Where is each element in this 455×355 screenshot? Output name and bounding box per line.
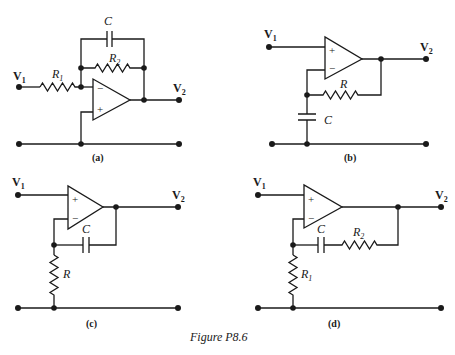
c-label-b: C bbox=[324, 113, 333, 127]
node bbox=[51, 305, 57, 311]
v1-label-b: V1 bbox=[264, 27, 277, 43]
ground-terminal bbox=[176, 141, 182, 147]
resistor-r1-d bbox=[289, 255, 297, 308]
ground-terminal bbox=[423, 141, 429, 147]
capacitor-c-d bbox=[318, 237, 324, 253]
panel-label-b: (b) bbox=[344, 152, 356, 164]
r1-label-d: R1 bbox=[300, 267, 312, 283]
c-label-a: C bbox=[104, 14, 113, 28]
r-label-c: R bbox=[62, 267, 71, 281]
wire bbox=[293, 219, 304, 255]
ground-terminal bbox=[438, 305, 444, 311]
resistor-r2-d bbox=[324, 207, 398, 249]
v2-label-a: V2 bbox=[173, 81, 186, 97]
ground-terminal bbox=[16, 141, 22, 147]
wire bbox=[112, 39, 144, 100]
circuit-b: V1 + − V2 R C (b) bbox=[264, 27, 433, 164]
opamp-input-top-sign: − bbox=[97, 82, 103, 94]
v1-label-c: V1 bbox=[12, 175, 25, 191]
opamp-input-bottom-sign: − bbox=[329, 62, 335, 74]
c-label-d: C bbox=[317, 222, 326, 236]
node bbox=[78, 141, 84, 147]
figure-p8-6: V1 R1 C R2 − + V2 (a) bbox=[0, 0, 455, 355]
panel-label-d: (d) bbox=[328, 318, 340, 330]
v2-terminal-c bbox=[175, 204, 181, 210]
circuit-c: V1 + − V2 C R (c) bbox=[12, 175, 185, 330]
ground-terminal bbox=[269, 141, 275, 147]
figure-caption: Figure P8.6 bbox=[189, 330, 248, 344]
wire bbox=[81, 112, 93, 144]
v2-terminal-b bbox=[423, 56, 429, 62]
capacitor-c-a bbox=[107, 31, 112, 47]
panel-label-a: (a) bbox=[92, 152, 104, 164]
v2-label-b: V2 bbox=[420, 40, 433, 56]
opamp-input-top-sign: + bbox=[308, 193, 314, 205]
node bbox=[290, 305, 296, 311]
opamp-input-top-sign: + bbox=[72, 193, 78, 205]
capacitor-c-b bbox=[298, 114, 316, 120]
opamp-input-bottom-sign: + bbox=[97, 103, 103, 115]
opamp-input-top-sign: + bbox=[329, 44, 335, 56]
opamp-input-bottom-sign: − bbox=[308, 212, 314, 224]
c-label-c: C bbox=[82, 222, 91, 236]
panel-label-c: (c) bbox=[86, 318, 97, 330]
r2-label-d: R2 bbox=[352, 225, 364, 241]
ground-terminal bbox=[255, 305, 261, 311]
capacitor-c-c bbox=[83, 237, 89, 253]
ground-terminal bbox=[175, 305, 181, 311]
v1-label-a: V1 bbox=[13, 69, 26, 85]
v2-label-c: V2 bbox=[172, 188, 185, 204]
opamp-input-bottom-sign: − bbox=[72, 212, 78, 224]
circuit-a: V1 R1 C R2 − + V2 (a) bbox=[13, 14, 186, 164]
resistor-r1-a bbox=[40, 83, 81, 91]
v2-terminal-a bbox=[176, 97, 182, 103]
resistor-r-c bbox=[50, 255, 58, 308]
node bbox=[304, 141, 310, 147]
v1-label-d: V1 bbox=[253, 175, 266, 191]
v2-label-d: V2 bbox=[435, 188, 448, 204]
v2-terminal-d bbox=[438, 204, 444, 210]
ground-terminal bbox=[15, 305, 21, 311]
r2-label-a: R2 bbox=[108, 51, 120, 67]
wire bbox=[54, 219, 68, 255]
node bbox=[141, 97, 147, 103]
r-label-b: R bbox=[339, 77, 348, 91]
resistor-r2-a bbox=[81, 64, 144, 72]
wire bbox=[307, 70, 325, 114]
r1-label-a: R1 bbox=[51, 67, 63, 83]
circuit-d: V1 + − V2 C R2 R1 (d) bbox=[253, 175, 448, 330]
